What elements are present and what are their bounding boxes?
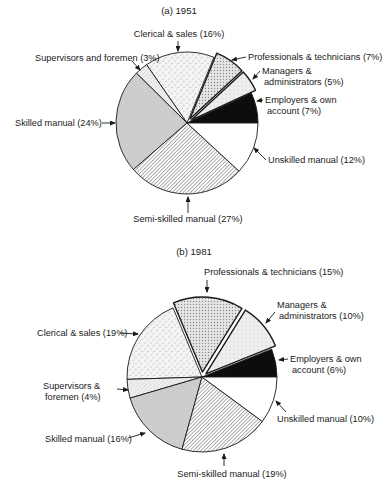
slice-label-supervisors-and-foremen: Supervisors and foremen (3%) xyxy=(35,53,160,63)
slice-label-employers-own-account: Employers & own xyxy=(265,95,337,105)
charts-layer: (a) 1951Employers & ownaccount (7%)Manag… xyxy=(15,5,382,479)
pie-chart-a-1951: (a) 1951Employers & ownaccount (7%)Manag… xyxy=(15,5,382,224)
chart-title: (a) 1951 xyxy=(161,5,197,16)
slice-label-unskilled-manual: Unskilled manual (12%) xyxy=(268,155,365,165)
slice-label-supervisors-foremen: Supervisors & xyxy=(43,381,100,391)
slice-label-skilled-manual: Skilled manual (16%) xyxy=(45,434,132,444)
slice-label-managers-administrators: Managers & xyxy=(262,66,312,76)
slice-label-semi-skilled-manual: Semi-skilled manual (27%) xyxy=(133,214,242,224)
label-arrow xyxy=(266,312,275,323)
label-arrow xyxy=(253,71,260,79)
slice-label-managers-administrators: administrators (10%) xyxy=(279,311,364,321)
pie-chart-figure: (a) 1951Employers & ownaccount (7%)Manag… xyxy=(0,0,387,483)
slice-label-unskilled-manual: Unskilled manual (10%) xyxy=(277,414,374,424)
slice-label-semi-skilled-manual: Semi-skilled manual (19%) xyxy=(177,469,286,479)
slice-label-supervisors-foremen: foremen (4%) xyxy=(45,392,101,402)
slice-label-employers-own-account: account (7%) xyxy=(267,106,321,116)
slice-label-employers-own-account: Employers & own xyxy=(290,354,362,364)
label-arrow xyxy=(257,100,263,101)
slice-label-managers-administrators: administrators (5%) xyxy=(264,77,344,87)
label-arrow xyxy=(279,359,288,360)
slice-label-clerical-sales: Clerical & sales (16%) xyxy=(134,29,224,39)
slice-label-skilled-manual: Skilled manual (24%) xyxy=(15,118,102,128)
chart-title: (b) 1981 xyxy=(176,246,212,257)
slice-label-clerical-sales: Clerical & sales (19%) xyxy=(37,328,127,338)
label-arrow xyxy=(254,148,266,160)
slice-label-employers-own-account: account (6%) xyxy=(292,365,346,375)
slice-label-professionals-technicians: Professionals & technicians (15%) xyxy=(204,267,343,277)
label-arrow xyxy=(276,401,286,412)
label-arrow xyxy=(117,389,128,390)
pie-chart-b-1981: (b) 1981Employers & ownaccount (6%)Manag… xyxy=(37,246,374,479)
slice-label-managers-administrators: Managers & xyxy=(277,300,327,310)
label-arrow xyxy=(232,57,246,60)
slice-label-professionals-technicians: Professionals & technicians (7%) xyxy=(248,52,382,62)
